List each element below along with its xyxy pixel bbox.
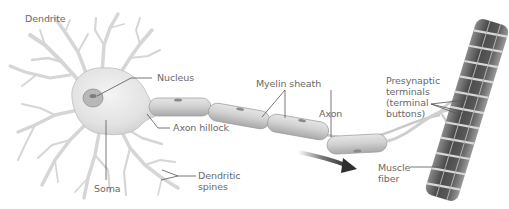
label-presynaptic-terminals: Presynaptic terminals (terminal buttons) (386, 75, 440, 119)
label-nucleus: Nucleus (157, 72, 194, 83)
signal-direction-arrow (298, 152, 357, 173)
label-muscle-fiber: Muscle fiber (378, 162, 410, 184)
label-axon-hillock: Axon hillock (173, 122, 229, 133)
neuron-diagram: Dendrite Nucleus Axon hillock Soma Dendr… (0, 0, 509, 209)
label-axon: Axon (319, 108, 342, 119)
label-dendritic-spines: Dendritic spines (198, 170, 240, 192)
label-dendrite: Dendrite (25, 13, 66, 24)
label-myelin-sheath: Myelin sheath (256, 78, 321, 89)
label-soma: Soma (94, 183, 121, 194)
